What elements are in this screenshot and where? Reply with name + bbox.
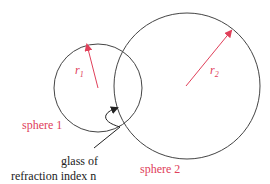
r2-subscript: 2 <box>215 70 219 79</box>
sphere-2-circle <box>114 13 260 159</box>
glass-label-line2: refraction index n <box>11 169 96 183</box>
glass-label-line1: glass of <box>61 154 98 168</box>
diagram: r1 r2 sphere 1 sphere 2 glass of refract… <box>0 0 270 184</box>
sphere-2-label: sphere 2 <box>140 162 180 176</box>
r1-subscript: 1 <box>80 70 84 79</box>
sphere-1-label: sphere 1 <box>22 118 62 132</box>
svg-text:r2: r2 <box>210 63 219 79</box>
radius-1-arrow <box>87 45 98 88</box>
radius-2-arrow <box>186 31 231 86</box>
svg-text:r1: r1 <box>75 63 84 79</box>
